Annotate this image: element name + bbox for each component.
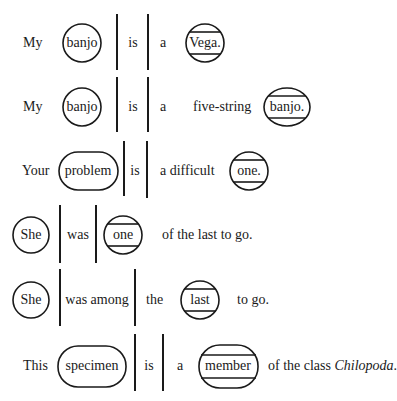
complement-word: one. xyxy=(237,163,261,179)
word: a xyxy=(160,99,166,115)
phrase-word: of the class Chilopoda. xyxy=(268,358,397,374)
subject-word: She xyxy=(21,292,42,308)
verb-word: was xyxy=(67,227,89,243)
subject-word: banjo xyxy=(66,35,97,51)
taxon-name: Chilopoda xyxy=(334,358,393,373)
verb-word: is xyxy=(128,35,137,51)
complement-word: member xyxy=(205,358,251,374)
subject-word: banjo xyxy=(66,99,97,115)
diagram-shapes xyxy=(0,0,397,401)
verb-word: is xyxy=(130,163,139,179)
word: a xyxy=(177,358,183,374)
word: Your xyxy=(22,163,49,179)
sentence-diagram-figure: My banjo is a Vega. My banjo is a five-s… xyxy=(0,0,397,401)
word: the xyxy=(146,292,163,308)
subject-word: specimen xyxy=(66,358,119,374)
phrase-text: of the class xyxy=(268,358,334,373)
complement-word: banjo. xyxy=(270,99,305,115)
phrase-word: of the last to go. xyxy=(162,227,253,243)
complement-word: one xyxy=(113,227,133,243)
word: a xyxy=(160,35,166,51)
complement-word: Vega. xyxy=(189,35,221,51)
period: . xyxy=(394,358,397,373)
modifier-word: five-string xyxy=(193,99,251,115)
modifier-word: a difficult xyxy=(160,163,215,179)
subject-word: She xyxy=(21,227,42,243)
word: My xyxy=(23,99,42,115)
phrase-word: to go. xyxy=(237,292,269,308)
complement-word: last xyxy=(190,292,209,308)
word: This xyxy=(23,358,48,374)
verb-word: is xyxy=(144,358,153,374)
subject-word: problem xyxy=(65,163,112,179)
verb-word: was among xyxy=(65,292,128,308)
verb-word: is xyxy=(128,99,137,115)
word: My xyxy=(23,35,42,51)
